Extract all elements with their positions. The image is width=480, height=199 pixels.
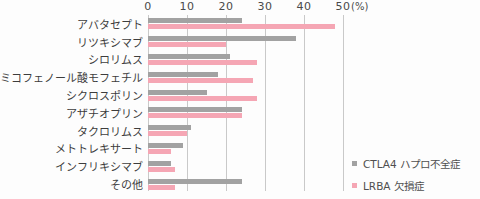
legend-item-ctla4: CTLA4 ハプロ不全症	[352, 156, 460, 171]
plot-area	[148, 15, 345, 193]
bar-row	[148, 15, 345, 33]
category-label: タクロリムス	[0, 122, 143, 140]
x-tick-label: 0	[144, 0, 152, 13]
bar-lrba-deficiency	[148, 113, 242, 118]
category-label: ミコフェノール酸モフェチル	[0, 68, 143, 86]
bar-lrba-deficiency	[148, 131, 187, 136]
bar-ctla4-haploinsufficiency	[148, 18, 242, 23]
bar-lrba-deficiency	[148, 149, 171, 154]
bar-lrba-deficiency	[148, 96, 257, 101]
legend-label-ctla4: CTLA4 ハプロ不全症	[363, 156, 460, 171]
bar-ctla4-haploinsufficiency	[148, 143, 183, 148]
legend-label-lrba: LRBA 欠損症	[363, 178, 424, 193]
bar-ctla4-haploinsufficiency	[148, 107, 242, 112]
category-label: インフリキシマブ	[0, 157, 143, 175]
bar-ctla4-haploinsufficiency	[148, 125, 191, 130]
category-label: その他	[0, 175, 143, 193]
bar-ctla4-haploinsufficiency	[148, 179, 242, 184]
bar-row	[148, 175, 345, 193]
bar-row	[148, 104, 345, 122]
lrba-color-swatch	[352, 183, 357, 188]
bar-lrba-deficiency	[148, 60, 257, 65]
bar-chart-figure: (%) 01020304050 アバタセプトリツキシマブシロリムスミコフェノール…	[0, 0, 480, 199]
bar-ctla4-haploinsufficiency	[148, 161, 171, 166]
bar-ctla4-haploinsufficiency	[148, 90, 207, 95]
bar-row	[148, 68, 345, 86]
bar-lrba-deficiency	[148, 167, 175, 172]
x-tick-label: 10	[180, 0, 195, 13]
category-label: シクロスポリン	[0, 86, 143, 104]
x-tick-label: 20	[219, 0, 234, 13]
category-label: アバタセプト	[0, 15, 143, 33]
category-label: アザチオプリン	[0, 104, 143, 122]
bar-lrba-deficiency	[148, 24, 335, 29]
x-tick-label: 30	[258, 0, 273, 13]
legend: CTLA4 ハプロ不全症 LRBA 欠損症	[352, 156, 460, 193]
bar-row	[148, 157, 345, 175]
ctla4-color-swatch	[352, 161, 357, 166]
category-labels: アバタセプトリツキシマブシロリムスミコフェノール酸モフェチルシクロスポリンアザチ…	[0, 15, 143, 193]
bar-lrba-deficiency	[148, 185, 175, 190]
category-label: メトトレキサート	[0, 140, 143, 158]
legend-item-lrba: LRBA 欠損症	[352, 178, 460, 193]
bar-row	[148, 140, 345, 158]
category-label: リツキシマブ	[0, 33, 143, 51]
bar-row	[148, 122, 345, 140]
bar-row	[148, 86, 345, 104]
category-label: シロリムス	[0, 51, 143, 69]
x-axis: (%) 01020304050	[0, 0, 480, 15]
bar-row	[148, 51, 345, 69]
bar-lrba-deficiency	[148, 42, 226, 47]
x-axis-unit: (%)	[351, 1, 368, 12]
bar-row	[148, 33, 345, 51]
x-tick-label: 50	[336, 0, 351, 13]
bar-ctla4-haploinsufficiency	[148, 72, 218, 77]
x-tick-label: 40	[297, 0, 312, 13]
bar-ctla4-haploinsufficiency	[148, 54, 230, 59]
bar-lrba-deficiency	[148, 78, 253, 83]
bar-ctla4-haploinsufficiency	[148, 36, 296, 41]
